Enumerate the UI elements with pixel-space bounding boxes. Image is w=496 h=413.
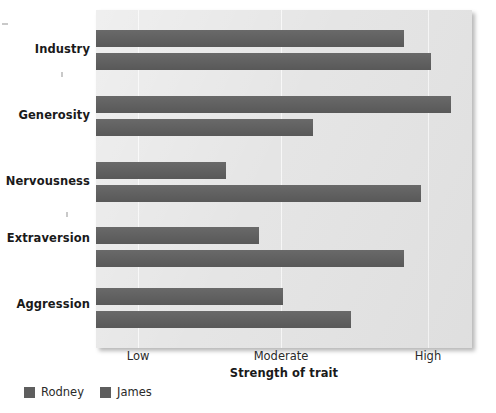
legend-swatch-icon [100,387,111,398]
category-label-extraversion: Extraversion [0,231,90,245]
tick-label-low: Low [78,349,198,363]
bar-extraversion-rodney [96,227,259,244]
bar-generosity-rodney [96,96,451,113]
bar-industry-rodney [96,30,404,47]
scan-speck [66,212,68,217]
legend-item-rodney: Rodney [24,385,84,399]
bar-extraversion-james [96,250,404,267]
tick-label-high: High [368,349,488,363]
bar-aggression-rodney [96,288,283,305]
bar-aggression-james [96,311,351,328]
bar-industry-james [96,53,431,70]
category-label-generosity: Generosity [0,108,90,122]
legend-label: James [117,385,152,399]
legend-label: Rodney [41,385,84,399]
bar-nervousness-james [96,185,421,202]
scan-speck [2,23,8,25]
chart-legend: RodneyJames [24,385,152,399]
plot-area [96,10,472,348]
bar-nervousness-rodney [96,162,226,179]
scan-speck [61,72,63,77]
bar-chart-figure: IndustryGenerosityNervousnessExtraversio… [0,0,496,413]
category-label-aggression: Aggression [0,297,90,311]
legend-swatch-icon [24,387,35,398]
bar-generosity-james [96,119,313,136]
category-label-nervousness: Nervousness [0,174,90,188]
category-label-industry: Industry [0,42,90,56]
tick-label-moderate: Moderate [221,349,341,363]
x-axis-title: Strength of trait [96,366,472,380]
legend-item-james: James [100,385,152,399]
